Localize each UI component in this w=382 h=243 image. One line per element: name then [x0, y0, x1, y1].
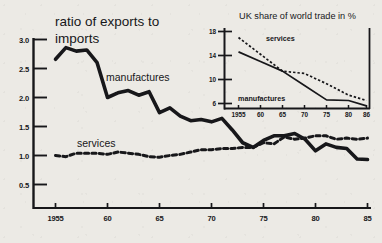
main-y-tick-label: 3.0 — [19, 36, 29, 45]
main-axes — [33, 38, 371, 209]
main-x-tick-labels: 1955 60 65 70 75 80 85 — [47, 214, 372, 223]
inset-y-tick-labels: 18 14 10 6 — [209, 28, 217, 107]
main-x-tick-label: 80 — [311, 214, 319, 223]
inset-x-tick-label: 75 — [323, 111, 331, 118]
page-title-line1: ratio of exports to — [55, 14, 159, 29]
main-x-tick-label: 85 — [363, 214, 372, 223]
main-y-tick-label: 1.5 — [19, 123, 30, 132]
inset-title: UK share of world trade in % — [239, 11, 356, 21]
inset-y-tick-label: 14 — [209, 52, 217, 59]
inset-x-tick-label: 60 — [257, 111, 265, 118]
chart-svg: 3.0 2.5 2.0 1.5 1.0 0.5 1955 60 65 70 75… — [0, 0, 382, 243]
main-y-tick-label: 1.0 — [19, 152, 29, 161]
inset-x-tick-label: 65 — [279, 111, 287, 118]
inset-series-label-manufactures: manufactures — [238, 94, 285, 103]
main-x-tick-label: 75 — [259, 214, 268, 223]
main-x-tick-label: 60 — [103, 214, 111, 223]
main-y-tick-label: 0.5 — [19, 181, 30, 190]
inset-x-tick-label: 86 — [363, 111, 371, 118]
inset-y-tick-label: 18 — [209, 28, 217, 35]
series-label-manufactures: manufactures — [106, 71, 170, 83]
inset-y-tick-label: 10 — [209, 76, 217, 83]
inset-series-line-services — [239, 38, 367, 101]
inset-x-tick-label: 1955 — [231, 111, 246, 118]
main-y-ticks — [33, 40, 47, 185]
inset-x-tick-labels: 1955 60 65 70 75 80 86 — [231, 111, 370, 118]
main-y-tick-labels: 3.0 2.5 2.0 1.5 1.0 0.5 — [19, 36, 30, 190]
main-y-tick-label: 2.5 — [19, 65, 30, 74]
main-x-tick-label: 1955 — [47, 214, 64, 223]
inset-series-label-services: services — [266, 34, 295, 43]
main-x-tick-label: 70 — [207, 214, 215, 223]
series-label-services: services — [77, 137, 116, 149]
inset-x-tick-label: 80 — [345, 111, 353, 118]
chart-figure: 3.0 2.5 2.0 1.5 1.0 0.5 1955 60 65 70 75… — [0, 0, 382, 243]
main-x-tick-label: 65 — [155, 214, 164, 223]
inset-chart: 18 14 10 6 1955 60 65 70 75 — [209, 11, 371, 118]
inset-y-tick-label: 6 — [212, 100, 216, 107]
inset-x-tick-label: 70 — [301, 111, 309, 118]
main-y-tick-label: 2.0 — [19, 94, 29, 103]
page-title-line2: imports — [55, 31, 100, 46]
